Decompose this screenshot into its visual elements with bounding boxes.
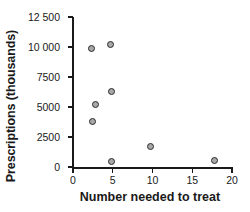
- y-tick: 12 500: [68, 16, 73, 17]
- data-point: [211, 157, 218, 164]
- x-tick: [72, 168, 73, 173]
- x-axis-label: Number needed to treat: [60, 190, 240, 204]
- data-point: [92, 101, 99, 108]
- data-point: [107, 41, 114, 48]
- y-axis-label: Prescriptions (thousands): [0, 0, 22, 212]
- data-point: [88, 45, 95, 52]
- y-tick: 5000: [68, 106, 73, 107]
- scatter-chart-figure: Prescriptions (thousands) 02500500075001…: [0, 0, 250, 212]
- y-tick-label: 12 500: [28, 11, 60, 23]
- y-tick-label: 2500: [37, 131, 60, 143]
- y-tick-label: 10 000: [28, 41, 60, 53]
- x-tick-label: 0: [70, 174, 76, 186]
- y-tick-label: 0: [54, 161, 60, 173]
- data-point: [108, 158, 115, 165]
- x-tick-label: 15: [186, 174, 198, 186]
- y-axis-line: [72, 17, 74, 168]
- x-tick: [192, 168, 193, 173]
- x-tick: [231, 168, 232, 173]
- data-point: [89, 118, 96, 125]
- y-tick-label: 7500: [37, 71, 60, 83]
- x-tick-label: 5: [110, 174, 116, 186]
- x-tick-label: 10: [147, 174, 159, 186]
- x-tick-label: 20: [226, 174, 238, 186]
- plot-area: 025005000750010 00012 500 05101520: [73, 17, 232, 167]
- x-tick: [112, 168, 113, 173]
- data-point: [108, 88, 115, 95]
- y-tick: 2500: [68, 136, 73, 137]
- y-tick: 7500: [68, 76, 73, 77]
- x-tick: [152, 168, 153, 173]
- y-tick: 10 000: [68, 46, 73, 47]
- data-point: [147, 143, 154, 150]
- y-tick-label: 5000: [37, 101, 60, 113]
